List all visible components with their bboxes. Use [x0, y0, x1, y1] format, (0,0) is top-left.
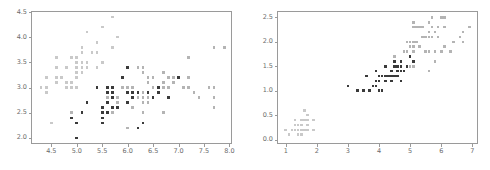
data-point-versicolor	[131, 91, 134, 94]
data-point-setosa	[50, 122, 53, 125]
data-point-versicolor	[147, 91, 150, 94]
data-point-setosa	[297, 124, 300, 127]
data-point-virginica	[223, 46, 226, 49]
data-point-versicolor	[375, 70, 378, 73]
data-point-virginica	[418, 45, 421, 48]
data-point-virginica	[162, 86, 165, 89]
data-point-virginica	[428, 21, 431, 24]
data-point-versicolor	[390, 80, 393, 83]
data-point-virginica	[172, 76, 175, 79]
y-tick-label: 1.0	[253, 87, 273, 94]
data-point-setosa	[65, 86, 68, 89]
data-point-virginica	[409, 41, 412, 44]
data-point-versicolor	[137, 127, 140, 130]
y-tick-mark	[275, 17, 278, 18]
data-point-virginica	[403, 50, 406, 53]
data-point-setosa	[81, 71, 84, 74]
data-point-versicolor	[384, 65, 387, 68]
data-point-versicolor	[381, 89, 384, 92]
data-point-versicolor	[157, 86, 160, 89]
x-tick-label: 7.5	[193, 148, 215, 155]
data-point-setosa	[306, 129, 309, 132]
data-point-versicolor	[106, 91, 109, 94]
data-point-virginica	[147, 96, 150, 99]
data-point-setosa	[86, 66, 89, 69]
data-point-versicolor	[101, 117, 104, 120]
data-point-virginica	[182, 86, 185, 89]
x-tick-label: 6	[430, 148, 452, 155]
data-point-virginica	[147, 81, 150, 84]
data-point-versicolor	[106, 111, 109, 114]
y-tick-mark	[29, 88, 32, 89]
data-point-versicolor	[86, 101, 89, 104]
data-point-versicolor	[409, 55, 412, 58]
data-point-versicolor	[75, 122, 78, 125]
data-point-virginica	[412, 65, 415, 68]
data-point-virginica	[428, 50, 431, 53]
data-point-versicolor	[111, 86, 114, 89]
y-tick-mark	[29, 12, 32, 13]
data-point-setosa	[312, 129, 315, 132]
y-tick-label: 4.5	[7, 9, 27, 16]
data-point-setosa	[75, 56, 78, 59]
data-point-virginica	[468, 26, 471, 29]
data-point-virginica	[393, 55, 396, 58]
data-point-versicolor	[126, 101, 129, 104]
data-point-versicolor	[400, 65, 403, 68]
data-point-versicolor	[381, 75, 384, 78]
data-point-versicolor	[365, 75, 368, 78]
data-point-virginica	[428, 31, 431, 34]
y-tick-label: 3.0	[7, 84, 27, 91]
data-point-versicolor	[375, 85, 378, 88]
data-point-virginica	[167, 86, 170, 89]
x-tick-label: 6.0	[117, 148, 139, 155]
data-point-virginica	[428, 36, 431, 39]
data-point-versicolor	[390, 70, 393, 73]
x-tick-label: 7	[461, 148, 483, 155]
data-point-setosa	[300, 119, 303, 122]
data-point-versicolor	[368, 89, 371, 92]
data-point-versicolor	[106, 101, 109, 104]
data-point-virginica	[167, 76, 170, 79]
data-point-virginica	[421, 26, 424, 29]
data-point-versicolor	[111, 91, 114, 94]
data-point-virginica	[213, 46, 216, 49]
data-point-virginica	[406, 50, 409, 53]
y-tick-label: 0.0	[253, 136, 273, 143]
data-point-versicolor	[396, 70, 399, 73]
data-point-setosa	[96, 66, 99, 69]
data-point-setosa	[306, 124, 309, 127]
data-point-versicolor	[70, 117, 73, 120]
data-point-virginica	[459, 36, 462, 39]
y-tick-label: 4.0	[7, 34, 27, 41]
x-tick-label: 2	[306, 148, 328, 155]
data-point-virginica	[121, 86, 124, 89]
data-point-setosa	[75, 66, 78, 69]
data-point-virginica	[187, 76, 190, 79]
data-point-setosa	[55, 56, 58, 59]
data-point-virginica	[126, 86, 129, 89]
data-point-virginica	[116, 101, 119, 104]
data-point-setosa	[91, 51, 94, 54]
data-point-versicolor	[362, 89, 365, 92]
data-point-setosa	[55, 81, 58, 84]
data-point-versicolor	[126, 66, 129, 69]
data-point-setosa	[75, 76, 78, 79]
data-point-versicolor	[400, 80, 403, 83]
data-point-virginica	[424, 50, 427, 53]
data-point-setosa	[86, 31, 89, 34]
x-tick-label: 4	[368, 148, 390, 155]
data-point-virginica	[437, 36, 440, 39]
y-tick-label: 2.5	[7, 109, 27, 116]
data-point-setosa	[65, 66, 68, 69]
data-point-setosa	[306, 119, 309, 122]
data-point-versicolor	[101, 122, 104, 125]
data-point-virginica	[412, 45, 415, 48]
data-point-versicolor	[396, 75, 399, 78]
y-tick-mark	[275, 115, 278, 116]
data-point-versicolor	[81, 111, 84, 114]
data-point-virginica	[213, 106, 216, 109]
data-point-versicolor	[137, 91, 140, 94]
data-point-virginica	[152, 86, 155, 89]
data-point-setosa	[306, 114, 309, 117]
